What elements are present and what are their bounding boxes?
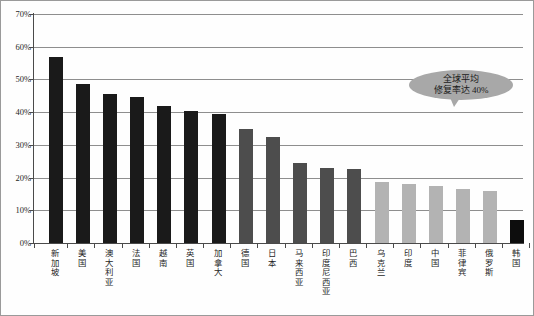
x-axis-label-15: 菲律宾 <box>458 249 469 278</box>
x-axis-label-11: 巴西 <box>349 249 360 268</box>
x-axis-label-9: 马来西亚 <box>295 249 306 287</box>
x-tick-17 <box>529 243 530 248</box>
x-axis-label-7: 德国 <box>241 249 252 268</box>
chart-figure: 70%60%50%40%30%20%10%0% 新加坡美国澳大利亚法国越南英国加… <box>0 0 534 316</box>
x-tick-16 <box>502 243 503 248</box>
x-axis-label-0: 新加坡 <box>51 249 62 278</box>
y-tick-label-70: 70% <box>1 10 31 19</box>
bar-11 <box>347 169 361 243</box>
bar-14 <box>429 186 443 243</box>
bar-8 <box>266 137 280 243</box>
x-tick-15 <box>475 243 476 248</box>
y-tick-label-20: 20% <box>1 174 31 183</box>
x-axis-label-14: 中国 <box>431 249 442 268</box>
bar-9 <box>293 163 307 243</box>
x-axis-label-10: 印度尼西亚 <box>322 249 333 297</box>
y-axis-labels: 70%60%50%40%30%20%10%0% <box>1 14 31 243</box>
x-tick-11 <box>366 243 367 248</box>
x-axis-label-2: 澳大利亚 <box>105 249 116 287</box>
x-tick-12 <box>393 243 394 248</box>
bar-12 <box>375 182 389 243</box>
x-tick-8 <box>285 243 286 248</box>
x-axis-label-17: 韩国 <box>512 249 523 268</box>
callout-line-2: 修复率达 40% <box>409 85 513 96</box>
bar-7 <box>239 129 253 244</box>
bar-15 <box>456 189 470 243</box>
bar-0 <box>49 57 63 243</box>
x-tick-4 <box>176 243 177 248</box>
bar-3 <box>130 97 144 243</box>
x-tick-13 <box>420 243 421 248</box>
callout-text: 全球平均 修复率达 40% <box>409 74 513 96</box>
x-axis-label-6: 加拿大 <box>214 249 225 278</box>
global-average-callout: 全球平均 修复率达 40% <box>409 70 513 106</box>
bar-13 <box>402 184 416 243</box>
y-tick-label-50: 50% <box>1 75 31 84</box>
bar-5 <box>184 111 198 243</box>
x-tick-14 <box>448 243 449 248</box>
y-tick-label-0: 0% <box>1 239 31 248</box>
x-tick-1 <box>94 243 95 248</box>
x-axis-label-3: 法国 <box>132 249 143 268</box>
x-tick-3 <box>149 243 150 248</box>
y-tick-label-40: 40% <box>1 108 31 117</box>
x-axis-label-5: 英国 <box>186 249 197 268</box>
x-axis-label-16: 俄罗斯 <box>485 249 496 278</box>
x-axis-label-1: 美国 <box>78 249 89 268</box>
x-axis-label-8: 日本 <box>268 249 279 268</box>
x-tick-9 <box>312 243 313 248</box>
x-tick-2 <box>122 243 123 248</box>
y-tick-label-60: 60% <box>1 43 31 52</box>
x-tick-7 <box>257 243 258 248</box>
x-axis-label-12: 乌克兰 <box>377 249 388 278</box>
x-tick-origin <box>34 243 35 248</box>
bar-10 <box>320 168 334 243</box>
bar-4 <box>157 106 171 243</box>
callout-tail-shape <box>449 95 462 107</box>
x-tick-6 <box>230 243 231 248</box>
bar-6 <box>212 114 226 243</box>
y-tick-label-10: 10% <box>1 206 31 215</box>
bar-series <box>34 14 523 243</box>
x-axis-labels: 新加坡美国澳大利亚法国越南英国加拿大德国日本马来西亚印度尼西亚巴西乌克兰印度中国… <box>34 249 523 315</box>
callout-line-1: 全球平均 <box>409 74 513 85</box>
x-tick-10 <box>339 243 340 248</box>
bar-2 <box>103 94 117 243</box>
x-axis-label-13: 印度 <box>404 249 415 268</box>
x-tick-5 <box>203 243 204 248</box>
bar-16 <box>483 191 497 243</box>
bar-17 <box>510 220 524 243</box>
x-tick-0 <box>67 243 68 248</box>
y-tick-label-30: 30% <box>1 141 31 150</box>
bar-1 <box>76 84 90 243</box>
x-axis-label-4: 越南 <box>159 249 170 268</box>
